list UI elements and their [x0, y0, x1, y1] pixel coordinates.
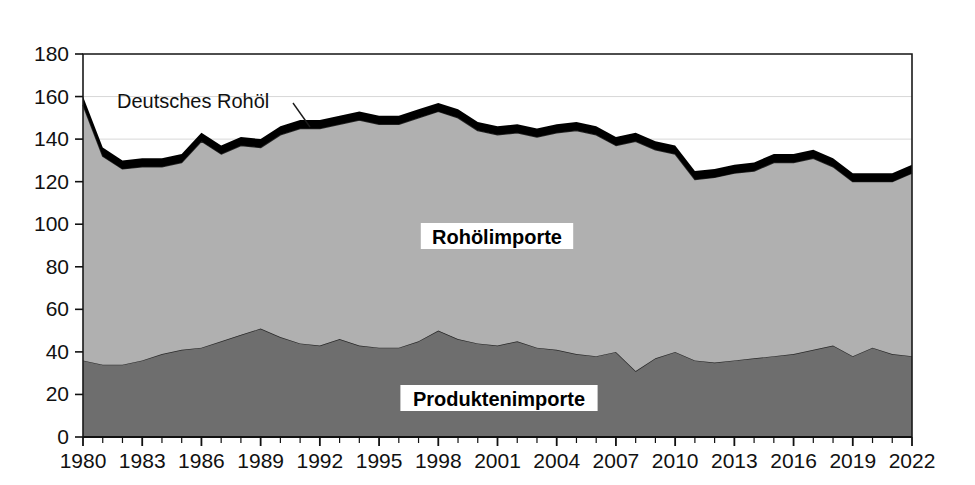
y-tick-label: 100 — [34, 212, 69, 235]
y-tick-label: 40 — [46, 340, 69, 363]
y-tick-label: 80 — [46, 255, 69, 278]
annotation-deutsches-rohoel: Deutsches Rohöl — [117, 90, 269, 112]
chart-container: Millionen Tonnen 02040608010012014016018… — [0, 0, 975, 485]
x-tick-label: 2022 — [889, 449, 936, 472]
y-tick-label: 0 — [57, 425, 69, 448]
x-tick-label: 1980 — [60, 449, 107, 472]
x-tick-label: 1989 — [237, 449, 284, 472]
y-tick-label: 120 — [34, 170, 69, 193]
y-tick-label: 20 — [46, 382, 69, 405]
x-tick-label: 2013 — [711, 449, 758, 472]
x-tick-label: 1992 — [296, 449, 343, 472]
y-tick-label: 140 — [34, 127, 69, 150]
x-tick-label: 2019 — [829, 449, 876, 472]
x-tick-label: 2010 — [652, 449, 699, 472]
chart-svg: 020406080100120140160180 198019831986198… — [0, 0, 975, 485]
series-label-produktenimporte: Produktenimporte — [413, 388, 585, 410]
series-label-rohoelimporte: Rohölimporte — [432, 226, 562, 248]
y-tick-label: 160 — [34, 85, 69, 108]
x-tick-label: 2004 — [533, 449, 580, 472]
x-tick-label: 2001 — [474, 449, 521, 472]
x-tick-label: 2016 — [770, 449, 817, 472]
x-tick-label: 1998 — [415, 449, 462, 472]
x-tick-label: 1995 — [356, 449, 403, 472]
x-tick-label: 1986 — [178, 449, 225, 472]
x-tick-label: 2007 — [593, 449, 640, 472]
y-tick-label: 180 — [34, 42, 69, 65]
x-tick-label: 1983 — [119, 449, 166, 472]
y-tick-label: 60 — [46, 297, 69, 320]
